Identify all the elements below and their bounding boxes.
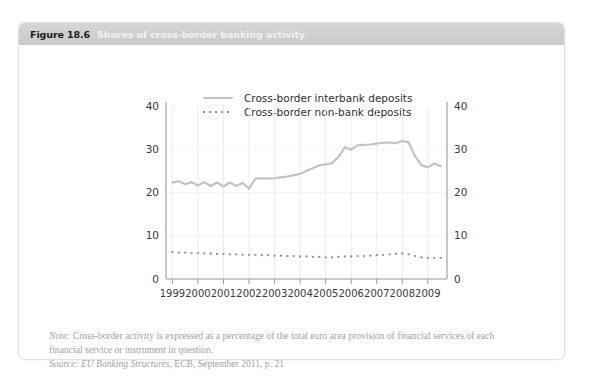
svg-text:10: 10 bbox=[146, 229, 159, 241]
source-rest: , ECB, September 2011, p. 21 bbox=[170, 358, 285, 369]
legend-item-interbank: Cross-border interbank deposits bbox=[201, 91, 451, 105]
source-publication: EU Banking Structures bbox=[78, 358, 169, 369]
figure-notes: Note: Cross-border activity is expressed… bbox=[49, 329, 539, 371]
figure-container: Figure 18.6 Shares of cross-border banki… bbox=[18, 22, 565, 360]
svg-text:30: 30 bbox=[146, 143, 159, 155]
chart-legend: Cross-border interbank deposits Cross-bo… bbox=[201, 91, 451, 119]
svg-text:2008: 2008 bbox=[390, 288, 415, 299]
svg-text:1999: 1999 bbox=[160, 288, 185, 299]
note-line-2: financial service or instrument in quest… bbox=[49, 343, 539, 357]
svg-text:2001: 2001 bbox=[211, 288, 236, 299]
note-line-1: Note: Cross-border activity is expressed… bbox=[49, 329, 539, 343]
svg-text:2002: 2002 bbox=[236, 288, 261, 299]
svg-text:20: 20 bbox=[146, 186, 159, 198]
svg-text:2003: 2003 bbox=[262, 288, 287, 299]
svg-text:2004: 2004 bbox=[287, 288, 312, 299]
source-prefix: Source: bbox=[49, 358, 78, 369]
source-line: Source: EU Banking Structures, ECB, Sept… bbox=[49, 357, 539, 371]
svg-text:2007: 2007 bbox=[364, 288, 389, 299]
chart-series-layer bbox=[171, 141, 442, 259]
note-text-1: Cross-border activity is expressed as a … bbox=[70, 330, 494, 341]
svg-text:2006: 2006 bbox=[338, 288, 363, 299]
svg-text:2005: 2005 bbox=[313, 288, 338, 299]
svg-text:0: 0 bbox=[454, 273, 461, 285]
line-chart-svg: 0010102020303040401999200020012002200320… bbox=[19, 23, 566, 361]
chart-plot-area: 0010102020303040401999200020012002200320… bbox=[19, 23, 566, 361]
svg-text:20: 20 bbox=[454, 186, 467, 198]
svg-text:10: 10 bbox=[454, 229, 467, 241]
figure-number: Figure 18.6 bbox=[30, 29, 90, 40]
note-prefix: Note: bbox=[49, 330, 70, 341]
svg-text:2009: 2009 bbox=[415, 288, 440, 299]
svg-text:40: 40 bbox=[454, 100, 467, 112]
legend-item-nonbank: Cross-border non-bank deposits bbox=[201, 105, 451, 119]
legend-swatch-solid-line-icon bbox=[201, 93, 235, 103]
svg-text:40: 40 bbox=[146, 100, 159, 112]
chart-gridlines bbox=[166, 106, 447, 279]
figure-title: Shares of cross-border banking activity bbox=[97, 29, 305, 40]
legend-label-nonbank: Cross-border non-bank deposits bbox=[244, 106, 411, 118]
svg-text:2000: 2000 bbox=[185, 288, 210, 299]
chart-axes bbox=[166, 102, 447, 284]
svg-text:30: 30 bbox=[454, 143, 467, 155]
svg-text:0: 0 bbox=[152, 273, 159, 285]
legend-label-interbank: Cross-border interbank deposits bbox=[244, 92, 412, 104]
legend-swatch-dotted-line-icon bbox=[201, 107, 235, 117]
chart-tick-labels: 0010102020303040401999200020012002200320… bbox=[146, 100, 468, 299]
figure-header-band: Figure 18.6 Shares of cross-border banki… bbox=[19, 23, 564, 45]
